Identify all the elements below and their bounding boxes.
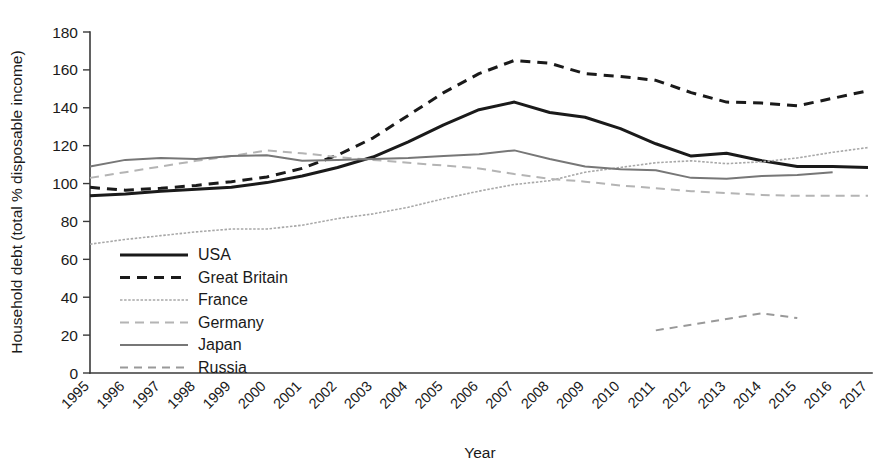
x-tick-label: 2010 — [588, 378, 622, 412]
y-axis-title: Household debt (total % disposable incom… — [8, 50, 25, 353]
chart-container: 020406080100120140160180 199519961997199… — [0, 0, 890, 473]
legend-label-france: France — [198, 291, 248, 308]
legend-label-germany: Germany — [198, 314, 264, 331]
x-axis: 1995199619971998199920002001200220032004… — [58, 373, 872, 412]
data-series-group — [90, 60, 868, 330]
x-tick-label: 1996 — [93, 378, 127, 412]
y-tick-label: 20 — [61, 327, 79, 344]
x-tick-label: 2006 — [447, 378, 481, 412]
legend-label-russia: Russia — [198, 359, 247, 376]
y-tick-label: 140 — [52, 99, 78, 116]
legend-label-usa: USA — [198, 246, 231, 263]
y-tick-label: 0 — [69, 365, 78, 382]
x-tick-label: 2003 — [341, 378, 375, 412]
x-tick-label: 1998 — [164, 378, 198, 412]
x-tick-label: 2008 — [518, 378, 552, 412]
x-tick-label: 2016 — [801, 378, 835, 412]
line-chart: 020406080100120140160180 199519961997199… — [0, 0, 890, 473]
x-tick-label: 2004 — [376, 378, 410, 412]
x-tick-label: 2017 — [836, 378, 870, 412]
x-tick-label: 2000 — [235, 378, 269, 412]
series-line-usa — [90, 102, 868, 196]
chart-legend: USAGreat BritainFranceGermanyJapanRussia — [120, 246, 288, 376]
y-axis: 020406080100120140160180 — [52, 24, 90, 382]
series-line-russia — [656, 313, 797, 330]
legend-label-great-britain: Great Britain — [198, 269, 288, 286]
x-tick-label: 1999 — [199, 378, 233, 412]
y-tick-label: 60 — [61, 251, 79, 268]
x-tick-label: 2014 — [730, 378, 764, 412]
y-tick-label: 80 — [61, 213, 79, 230]
series-line-great-britain — [90, 60, 868, 190]
x-tick-label: 2002 — [306, 378, 340, 412]
x-tick-label: 1997 — [129, 378, 163, 412]
x-axis-title: Year — [464, 444, 495, 461]
series-line-france — [90, 148, 868, 245]
x-tick-label: 2012 — [659, 378, 693, 412]
y-tick-label: 40 — [61, 289, 79, 306]
y-tick-label: 120 — [52, 137, 78, 154]
legend-label-japan: Japan — [198, 336, 242, 353]
x-tick-label: 2007 — [482, 378, 516, 412]
y-tick-label: 180 — [52, 24, 78, 41]
x-tick-label: 2009 — [553, 378, 587, 412]
y-tick-label: 160 — [52, 61, 78, 78]
y-tick-label: 100 — [52, 175, 78, 192]
x-tick-label: 2011 — [625, 378, 658, 411]
x-tick-label: 2013 — [695, 378, 729, 412]
x-tick-label: 1995 — [58, 378, 92, 412]
x-tick-label: 2001 — [270, 378, 304, 412]
x-tick-label: 2005 — [412, 378, 446, 412]
x-tick-label: 2015 — [765, 378, 799, 412]
